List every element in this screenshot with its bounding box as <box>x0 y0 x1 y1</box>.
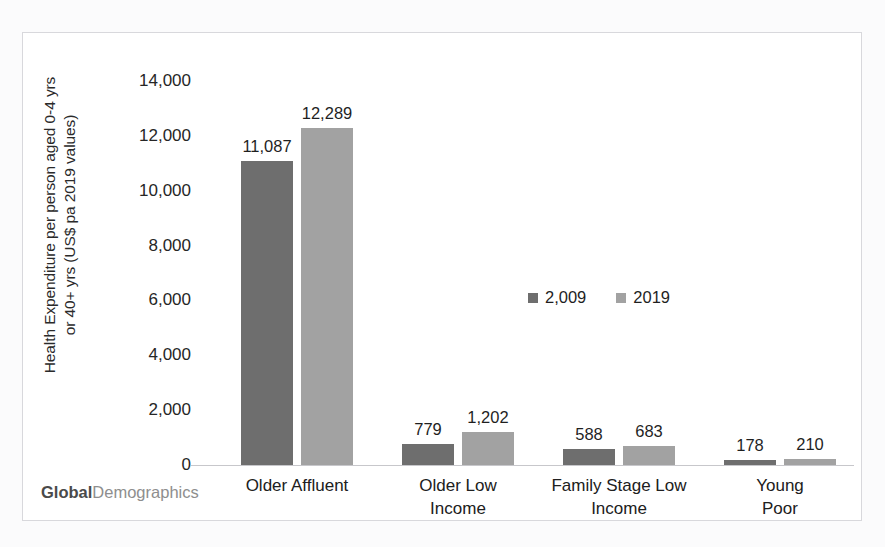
legend-label: 2019 <box>633 288 670 307</box>
bar <box>724 460 776 465</box>
x-category-label: Family Stage Low Income <box>551 474 686 521</box>
bar-value-label: 588 <box>575 425 603 444</box>
legend-swatch-icon <box>616 293 626 303</box>
y-tick-label: 0 <box>91 455 191 475</box>
bar <box>784 459 836 465</box>
bar-value-label: 12,289 <box>302 104 352 123</box>
y-axis-title-line-1: Health Expenditure per person aged 0-4 y… <box>40 77 60 374</box>
y-tick-label: 12,000 <box>91 126 191 146</box>
y-axis-tick-labels: 02,0004,0006,0008,00010,00012,00014,000 <box>81 33 191 522</box>
y-tick-label: 6,000 <box>91 290 191 310</box>
watermark-globaldemographics: GlobalDemographics <box>41 483 199 502</box>
bar <box>301 128 353 465</box>
bar-value-label: 779 <box>414 420 442 439</box>
chart-frame: Health Expenditure per person aged 0-4 y… <box>22 32 862 521</box>
chart-legend: 2,0092019 <box>528 288 670 307</box>
y-tick-label: 10,000 <box>91 181 191 201</box>
bar-value-label: 11,087 <box>242 137 291 156</box>
watermark-light: Demographics <box>92 483 198 501</box>
bar-value-label: 1,202 <box>467 408 508 427</box>
y-tick-label: 2,000 <box>91 400 191 420</box>
bar <box>402 444 454 465</box>
plot-area <box>196 81 846 465</box>
x-category-label: Older Low Income <box>419 474 496 521</box>
chart-screenshot: Health Expenditure per person aged 0-4 y… <box>0 0 885 547</box>
bar <box>241 161 293 465</box>
y-axis-title-line-2: or 40+ yrs (US$ pa 2019 values) <box>60 115 80 335</box>
y-tick-label: 8,000 <box>91 236 191 256</box>
bar-value-label: 210 <box>796 435 824 454</box>
watermark-strong: Global <box>41 483 92 501</box>
legend-item: 2019 <box>616 288 670 307</box>
bar <box>563 449 615 465</box>
bar <box>462 432 514 465</box>
legend-swatch-icon <box>528 293 538 303</box>
bar-value-label: 178 <box>736 436 764 455</box>
legend-label: 2,009 <box>545 288 586 307</box>
bar <box>623 446 675 465</box>
x-category-label: Young Poor <box>740 474 821 521</box>
legend-item: 2,009 <box>528 288 586 307</box>
x-category-label: Older Affluent <box>246 474 349 497</box>
y-tick-label: 4,000 <box>91 345 191 365</box>
x-axis-line <box>191 465 854 466</box>
bar-value-label: 683 <box>635 422 663 441</box>
y-tick-label: 14,000 <box>91 71 191 91</box>
